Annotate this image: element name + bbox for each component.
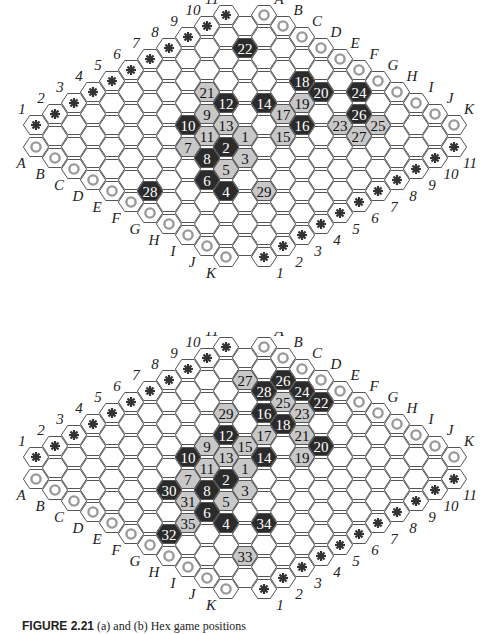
row-label: 11 xyxy=(463,487,477,503)
move-number: 3 xyxy=(241,483,249,499)
row-label: 9 xyxy=(428,177,436,193)
row-label: 1 xyxy=(276,265,284,281)
asterisk-icon xyxy=(31,120,41,130)
asterisk-icon xyxy=(316,551,326,561)
row-label: 1 xyxy=(18,433,26,449)
move-number: 22 xyxy=(314,395,329,411)
asterisk-icon xyxy=(392,507,402,517)
asterisk-icon xyxy=(69,98,79,108)
row-label: 6 xyxy=(113,46,121,62)
row-label: 4 xyxy=(75,68,83,84)
move-number: 19 xyxy=(295,450,310,466)
move-number: 1 xyxy=(241,129,249,145)
move-number: 8 xyxy=(203,151,211,167)
asterisk-icon xyxy=(221,342,231,352)
row-label: 2 xyxy=(295,254,303,270)
row-label: 3 xyxy=(55,411,64,427)
move-number: 17 xyxy=(276,107,292,123)
move-number: 21 xyxy=(200,85,215,101)
figure-caption-text: (a) and (b) Hex game positions xyxy=(97,619,246,633)
move-number: 27 xyxy=(352,129,368,145)
asterisk-icon xyxy=(183,364,193,374)
row-label: 5 xyxy=(94,389,102,405)
column-label: F xyxy=(110,542,121,558)
asterisk-icon xyxy=(259,584,269,594)
row-label: 2 xyxy=(37,90,45,106)
row-label: 6 xyxy=(371,210,379,226)
column-label: D xyxy=(72,520,84,536)
column-label: E xyxy=(349,367,359,383)
row-label: 9 xyxy=(170,345,178,361)
move-number: 20 xyxy=(314,85,329,101)
row-label: 11 xyxy=(205,332,219,339)
asterisk-icon xyxy=(126,397,136,407)
figure-label: FIGURE 2.21 xyxy=(22,619,94,633)
move-number: 16 xyxy=(257,406,273,422)
move-number: 25 xyxy=(371,118,386,134)
move-number: 35 xyxy=(181,516,196,532)
asterisk-icon xyxy=(373,186,383,196)
move-number: 19 xyxy=(295,96,310,112)
move-number: 15 xyxy=(238,439,253,455)
asterisk-icon xyxy=(392,175,402,185)
row-label: 5 xyxy=(352,553,360,569)
move-number: 8 xyxy=(203,483,211,499)
asterisk-icon xyxy=(126,65,136,75)
column-label: G xyxy=(388,57,399,73)
row-label: 7 xyxy=(390,199,399,215)
column-label: K xyxy=(463,101,475,117)
move-number: 7 xyxy=(184,140,192,156)
row-label: 11 xyxy=(205,0,219,7)
column-label: K xyxy=(205,265,217,281)
column-label: I xyxy=(428,411,435,427)
column-label: J xyxy=(189,254,197,270)
move-number: 20 xyxy=(314,439,329,455)
asterisk-icon xyxy=(164,43,174,53)
move-number: 14 xyxy=(257,96,273,112)
move-number: 21 xyxy=(295,428,310,444)
column-label: E xyxy=(91,199,101,215)
column-label: E xyxy=(349,35,359,51)
asterisk-icon xyxy=(50,109,60,119)
column-label: A xyxy=(273,332,284,339)
row-label: 9 xyxy=(428,509,436,525)
column-label: K xyxy=(205,597,217,613)
figure-caption: FIGURE 2.21 (a) and (b) Hex game positio… xyxy=(22,619,246,634)
asterisk-icon xyxy=(183,32,193,42)
row-label: 11 xyxy=(463,155,477,171)
move-number: 6 xyxy=(203,173,211,189)
move-number: 12 xyxy=(219,428,234,444)
move-number: 24 xyxy=(352,85,368,101)
column-label: K xyxy=(463,433,475,449)
asterisk-icon xyxy=(316,219,326,229)
move-number: 6 xyxy=(203,505,211,521)
row-label: 8 xyxy=(409,520,417,536)
asterisk-icon xyxy=(411,164,421,174)
asterisk-icon xyxy=(221,10,231,20)
asterisk-icon xyxy=(278,241,288,251)
asterisk-icon xyxy=(259,252,269,262)
move-number: 27 xyxy=(238,373,254,389)
asterisk-icon xyxy=(107,76,117,86)
move-number: 34 xyxy=(257,516,273,532)
asterisk-icon xyxy=(373,518,383,528)
row-label: 4 xyxy=(75,400,83,416)
row-label: 8 xyxy=(151,356,159,372)
move-number: 18 xyxy=(276,417,291,433)
move-number: 4 xyxy=(222,184,230,200)
asterisk-icon xyxy=(31,452,41,462)
asterisk-icon xyxy=(278,573,288,583)
asterisk-icon xyxy=(145,54,155,64)
asterisk-icon xyxy=(449,142,459,152)
move-number: 2 xyxy=(222,472,230,488)
column-label: G xyxy=(388,389,399,405)
column-label: D xyxy=(72,188,84,204)
row-label: 2 xyxy=(295,586,303,602)
move-number: 11 xyxy=(200,461,214,477)
row-label: 4 xyxy=(333,564,341,580)
move-number: 10 xyxy=(181,450,196,466)
move-number: 1 xyxy=(241,461,249,477)
asterisk-icon xyxy=(69,430,79,440)
column-label: E xyxy=(91,531,101,547)
column-label: G xyxy=(130,553,141,569)
